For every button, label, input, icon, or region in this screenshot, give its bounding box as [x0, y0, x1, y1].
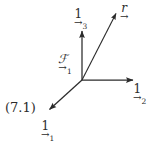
position-vector-label: r →: [120, 3, 128, 23]
frame-label: ℱ → 1: [58, 54, 72, 74]
unit-vector-3-underarrow-icon: →: [74, 19, 82, 26]
unit-vector-3-label: 1 → 3: [74, 9, 87, 29]
position-vector-underarrow-icon: →: [120, 13, 128, 20]
unit-vector-1-vecstack: 1 →: [41, 121, 49, 138]
unit-vector-2-subscript: 2: [141, 98, 146, 106]
unit-vector-2-label: 1 → 2: [133, 84, 146, 104]
unit-vector-1-underarrow-icon: →: [41, 131, 49, 138]
unit-vector-1-arrow: [50, 80, 83, 110]
frame-vecstack: ℱ →: [58, 54, 67, 71]
unit-vector-3-subscript: 3: [82, 23, 87, 31]
unit-vector-2-underarrow-icon: →: [133, 94, 141, 101]
frame-underarrow-icon: →: [58, 64, 67, 71]
unit-vector-2-vecstack: 1 →: [133, 84, 141, 101]
unit-vector-1-subscript: 1: [49, 135, 54, 143]
equation-number: (7.1): [5, 100, 36, 115]
unit-vector-1-label: 1 → 1: [41, 121, 54, 141]
frame-subscript: 1: [67, 68, 72, 76]
unit-vector-3-vecstack: 1 →: [74, 9, 82, 26]
position-vector-vecstack: r →: [120, 3, 128, 20]
vector-frame-figure: (7.1) 1 → 3 1 → 2 1 → 1 r → ℱ → 1: [0, 0, 158, 144]
